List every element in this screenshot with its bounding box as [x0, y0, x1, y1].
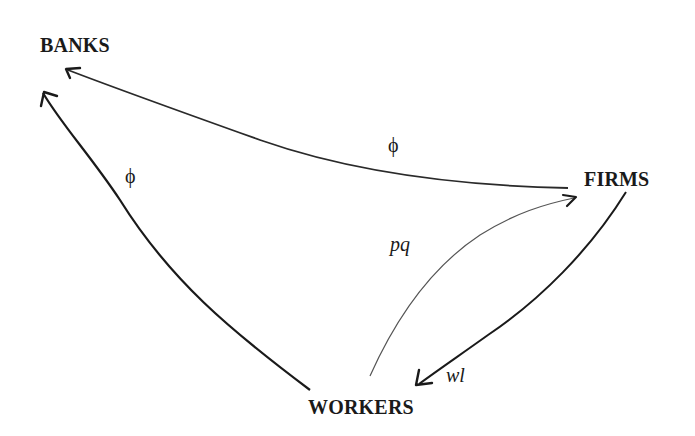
edge-label-workers-firms: pq	[390, 233, 410, 256]
edge-label-firms-workers: wl	[446, 364, 465, 387]
arrow-firms-to-workers	[416, 192, 626, 385]
node-banks: BANKS	[40, 34, 110, 57]
node-workers: WORKERS	[308, 396, 414, 419]
arrow-firms-to-banks	[66, 68, 568, 188]
circular-flow-diagram: BANKS FIRMS WORKERS ϕ ϕ pq wl	[0, 0, 695, 436]
arrow-workers-to-banks	[41, 92, 310, 390]
arrow-workers-to-firms	[370, 195, 576, 376]
arrows-layer	[0, 0, 695, 436]
node-firms: FIRMS	[584, 168, 649, 191]
edge-label-workers-banks: ϕ	[125, 165, 136, 188]
edge-label-firms-banks: ϕ	[388, 134, 399, 157]
